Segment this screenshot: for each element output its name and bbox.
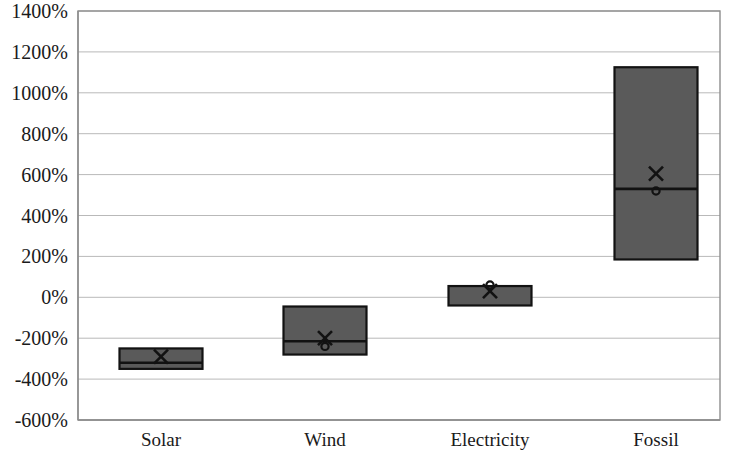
category-label-electricity: Electricity <box>450 429 530 450</box>
box-wind <box>284 307 367 355</box>
y-tick-label: 600% <box>21 164 68 186</box>
y-tick-label: 0% <box>41 286 68 308</box>
box-solar <box>120 348 203 368</box>
chart-container: 1400%1200%1000%800%600%400%200%0%-200%-4… <box>0 0 730 460</box>
y-tick-label: 1000% <box>11 82 68 104</box>
box-fossil <box>615 67 698 259</box>
category-label-solar: Solar <box>141 429 182 450</box>
category-label-fossil: Fossil <box>633 429 678 450</box>
box-range-chart: 1400%1200%1000%800%600%400%200%0%-200%-4… <box>0 0 730 460</box>
y-tick-label: 1200% <box>11 41 68 63</box>
category-label-wind: Wind <box>304 429 346 450</box>
y-tick-label: -600% <box>15 409 68 431</box>
y-tick-label: 400% <box>21 205 68 227</box>
y-tick-label: -200% <box>15 327 68 349</box>
y-tick-label: 1400% <box>11 0 68 22</box>
y-tick-label: 200% <box>21 245 68 267</box>
y-tick-label: -400% <box>15 368 68 390</box>
y-tick-label: 800% <box>21 123 68 145</box>
